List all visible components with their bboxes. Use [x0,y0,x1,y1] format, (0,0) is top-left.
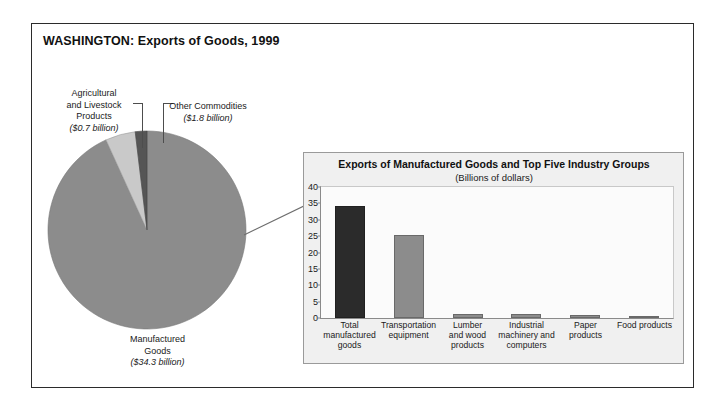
y-axis-tick-label: 30 [308,215,318,225]
y-axis-tick-label: 25 [308,231,318,241]
bar-1 [335,206,365,318]
y-axis-tick-label: 40 [308,182,318,192]
x-axis-label-line: Lumber [439,320,496,330]
bar-6 [629,316,659,318]
x-axis-label-line: machinery and [498,330,555,340]
pie-label-manufactured-line1: Manufactured [95,334,220,346]
y-axis-tick-mark [318,285,321,286]
bar-slot [438,187,497,318]
x-axis-label-line: and wood [439,330,496,340]
y-axis-tick-mark [318,219,321,220]
bar-4 [511,314,541,318]
callout-connector [243,205,305,265]
bar-slot [380,187,439,318]
x-axis-label-line: Total [321,320,378,330]
x-axis-label-line: Transportation [380,320,437,330]
bar-chart-plot-area: 0510152025303540 [320,186,674,319]
pie-label-manufactured-line2: Goods [95,346,220,358]
bar-3 [453,314,483,318]
y-axis-tick-mark [318,318,321,319]
bar-chart-category-axis: TotalmanufacturedgoodsTransportationequi… [320,320,674,350]
y-axis-tick-mark [318,187,321,188]
pie-label-other-amount: ($1.8 billion) [148,113,268,125]
pie-label-manufactured-goods: Manufactured Goods ($34.3 billion) [95,334,220,369]
pie-label-agricultural: Agricultural and Livestock Products ($0.… [48,88,140,134]
x-axis-label-3: Lumberand woodproducts [438,320,497,350]
y-axis-tick-label: 35 [308,198,318,208]
pie-label-agricultural-line1: Agricultural [48,88,140,100]
pie-label-manufactured-amount: ($34.3 billion) [95,357,220,369]
bar-slot [321,187,380,318]
bar-chart-title: Exports of Manufactured Goods and Top Fi… [309,158,679,170]
bar-chart-subtitle: (Billions of dollars) [309,172,679,183]
x-axis-label-line: manufactured [321,330,378,340]
x-axis-label-line: equipment [380,330,437,340]
bar-5 [570,315,600,318]
x-axis-label-4: Industrialmachinery andcomputers [497,320,556,350]
pie-label-other-line1: Other Commodities [148,101,268,113]
y-axis-tick-mark [318,252,321,253]
bar-slot [614,187,673,318]
page-title: WASHINGTON: Exports of Goods, 1999 [43,34,280,48]
pie-label-other-commodities: Other Commodities ($1.8 billion) [148,101,268,124]
y-axis-tick-mark [318,301,321,302]
x-axis-label-line: Industrial [498,320,555,330]
pie-label-agricultural-line3: Products [48,111,140,123]
bar-slot [556,187,615,318]
pie-label-agricultural-amount: ($0.7 billion) [48,123,140,135]
x-axis-label-line: products [439,340,496,350]
x-axis-label-1: Totalmanufacturedgoods [320,320,379,350]
bar-2 [394,235,424,318]
leader-line-agricultural-vertical [142,103,143,148]
bar-series [321,187,673,318]
x-axis-label-line: Food products [616,320,673,330]
y-axis-tick-label: 20 [308,248,318,258]
figure-root: WASHINGTON: Exports of Goods, 1999 Agric… [0,0,724,416]
x-axis-label-5: Paper products [556,320,615,350]
x-axis-label-6: Food products [615,320,674,350]
y-axis-tick-mark [318,203,321,204]
x-axis-label-line: computers [498,340,555,350]
x-axis-label-2: Transportationequipment [379,320,438,350]
pie-svg [47,130,247,330]
bar-slot [497,187,556,318]
x-axis-label-line: goods [321,340,378,350]
x-axis-label-line: Paper products [557,320,614,340]
pie-chart [47,130,247,330]
y-axis-tick-mark [318,236,321,237]
pie-label-agricultural-line2: and Livestock [48,100,140,112]
y-axis-tick-label: 15 [308,264,318,274]
y-axis-tick-label: 10 [308,280,318,290]
y-axis-tick-mark [318,268,321,269]
